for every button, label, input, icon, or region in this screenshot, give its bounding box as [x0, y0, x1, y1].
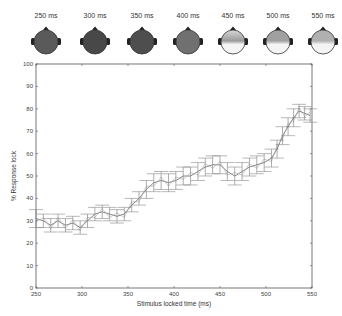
y-tick-label: 60	[26, 151, 33, 157]
x-tick-label: 250	[31, 291, 42, 297]
x-tick-label: 500	[261, 291, 272, 297]
plot-frame	[36, 64, 312, 288]
y-tick-label: 90	[26, 83, 33, 89]
x-tick-label: 400	[169, 291, 180, 297]
x-tick-label: 450	[215, 291, 226, 297]
data-series	[29, 104, 317, 234]
y-tick-label: 80	[26, 106, 33, 112]
x-tick-label: 550	[307, 291, 318, 297]
x-axis-label: Stimulus locked time (ms)	[137, 300, 211, 308]
x-tick-label: 350	[123, 291, 134, 297]
y-tick-label: 40	[26, 195, 33, 201]
series-line	[36, 111, 310, 227]
y-tick-label: 50	[26, 173, 33, 179]
y-tick-label: 10	[26, 263, 33, 269]
response-lock-chart: 0102030405060708090100250300350400450500…	[0, 0, 342, 316]
y-tick-label: 100	[23, 61, 34, 67]
y-tick-label: 30	[26, 218, 33, 224]
x-tick-label: 300	[77, 291, 88, 297]
y-tick-label: 20	[26, 240, 33, 246]
y-tick-label: 70	[26, 128, 33, 134]
axes: 0102030405060708090100250300350400450500…	[23, 61, 318, 297]
y-axis-label: % Response lock	[10, 150, 18, 201]
